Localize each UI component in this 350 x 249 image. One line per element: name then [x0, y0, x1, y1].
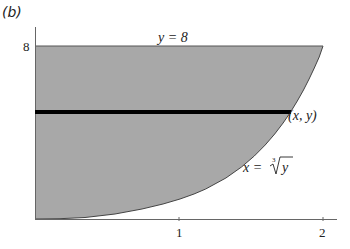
x-tick-label-1: 1 [176, 225, 183, 240]
root-index: 3 [272, 156, 276, 164]
region-diagram: (b) 8 1 2 y = 8 (x, y) x = 3 y [0, 0, 350, 249]
x-tick-label-2: 2 [319, 225, 326, 240]
top-line-label: y = 8 [156, 30, 188, 45]
shaded-region [35, 46, 323, 219]
panel-label: (b) [2, 4, 22, 20]
y-tick-label-8: 8 [23, 39, 30, 54]
curve-label-lhs: x = [242, 160, 262, 175]
radicand: y [280, 160, 289, 175]
point-label: (x, y) [288, 108, 317, 124]
